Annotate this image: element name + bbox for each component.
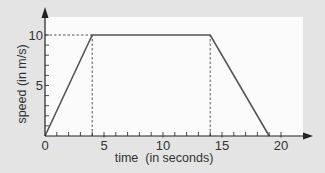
y-axis-arrow-icon: [42, 7, 49, 18]
svg-text:5: 5: [100, 138, 107, 153]
speed-time-graph: 05101520 510 time (in seconds) speed (in…: [0, 0, 325, 173]
svg-text:10: 10: [29, 28, 43, 43]
x-axis-arrow-icon: [303, 133, 313, 140]
svg-text:5: 5: [36, 78, 43, 93]
x-axis-label: time (in seconds): [115, 151, 214, 165]
svg-text:15: 15: [215, 138, 229, 153]
y-tick-labels: 510: [29, 28, 43, 94]
svg-text:0: 0: [41, 138, 48, 153]
svg-text:20: 20: [274, 138, 288, 153]
y-axis-label: speed (in m/s): [15, 44, 29, 123]
